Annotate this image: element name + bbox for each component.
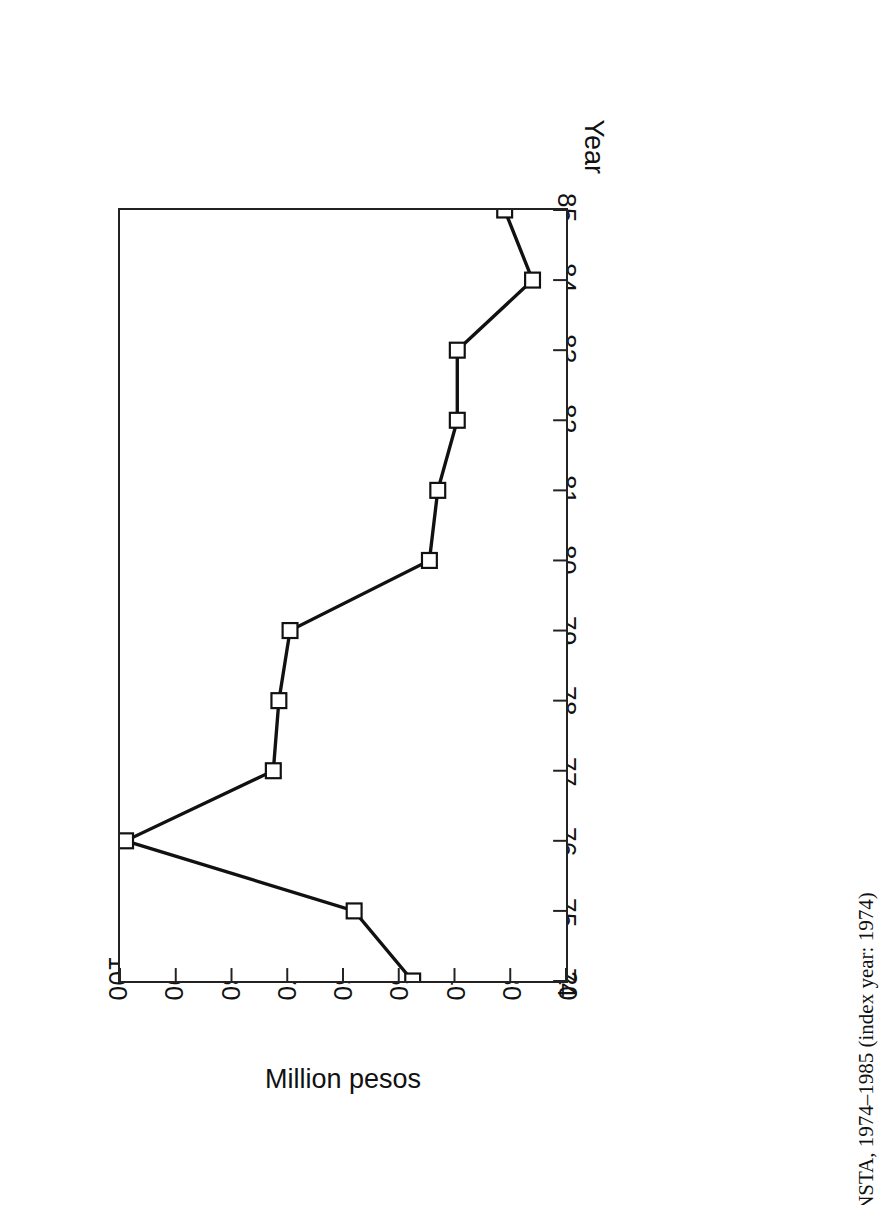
plot-frame <box>118 208 568 983</box>
data-point-marker <box>266 763 281 778</box>
caption-body: R&D allotment of the NSTA, 1974–1985 (in… <box>854 892 878 1205</box>
y-axis-title: Million pesos <box>265 1063 421 1094</box>
figure-root: 2030405060708090100 74757677787980818283… <box>0 0 880 1205</box>
data-point-marker <box>120 833 133 848</box>
data-point-marker <box>497 210 512 217</box>
data-line <box>126 210 533 981</box>
data-point-marker <box>405 973 420 980</box>
data-point-marker <box>430 482 445 497</box>
data-point-marker <box>525 272 540 287</box>
data-point-marker <box>271 693 286 708</box>
data-point-marker <box>450 342 465 357</box>
data-point-marker <box>283 623 298 638</box>
data-point-marker <box>422 552 437 567</box>
chart-stage: 2030405060708090100 74757677787980818283… <box>48 103 708 1103</box>
data-series-plot <box>120 210 566 981</box>
data-point-marker <box>450 412 465 427</box>
figure-caption: Fig. 13. R&D allotment of the NSTA, 1974… <box>854 892 879 1205</box>
x-axis-title: Year <box>578 119 609 174</box>
data-point-marker <box>347 903 362 918</box>
